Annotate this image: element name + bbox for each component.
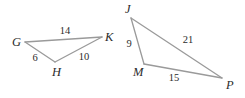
side-length-gk: 14 — [60, 25, 71, 36]
vertex-label-m: M — [132, 65, 144, 79]
triangle-jmp: J M P 9 21 15 — [125, 2, 234, 92]
side-length-hk: 10 — [79, 51, 90, 62]
vertex-label-p: P — [225, 78, 234, 92]
geometry-diagram: G K H 14 6 10 J M P 9 21 15 — [0, 0, 245, 98]
geometry-canvas: G K H 14 6 10 J M P 9 21 15 — [0, 0, 245, 98]
triangle-ghk: G K H 14 6 10 — [12, 25, 114, 78]
vertex-label-h: H — [51, 65, 62, 79]
segment-gk — [25, 37, 102, 42]
vertex-label-j: J — [125, 2, 132, 16]
side-length-jm: 9 — [126, 38, 131, 49]
segment-gh — [25, 42, 55, 62]
side-length-gh: 6 — [32, 52, 37, 63]
segment-jp — [131, 18, 222, 78]
vertex-label-g: G — [12, 35, 21, 49]
side-length-mp: 15 — [169, 72, 180, 83]
side-length-jp: 21 — [183, 34, 194, 45]
vertex-label-k: K — [104, 30, 114, 44]
